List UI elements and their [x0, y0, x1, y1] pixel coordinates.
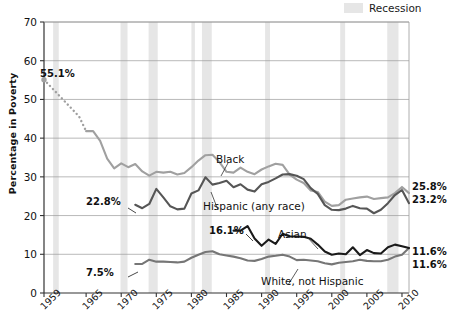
- y-tick-label: 70: [24, 16, 37, 28]
- end-label-white: 11.6%: [412, 259, 447, 270]
- poverty-rate-chart: Recession Percentage in Poverty 01020304…: [0, 0, 453, 336]
- y-tick-label: 30: [24, 171, 37, 183]
- y-tick-label: 10: [24, 248, 37, 260]
- y-tick-label: 20: [24, 210, 37, 222]
- x-axis-ticks: 1959196519701975198019851990199520002005…: [0, 298, 453, 336]
- y-tick-label: 40: [24, 132, 37, 144]
- annotation-white-start: 7.5%: [86, 267, 114, 278]
- y-tick-label: 60: [24, 55, 37, 67]
- annotation-black-start: 55.1%: [40, 68, 75, 79]
- annotation-hispanic-start: 22.8%: [86, 196, 121, 207]
- series-label-white: White, not Hispanic: [261, 275, 363, 287]
- annotation-asian-start: 16.1%: [209, 225, 244, 236]
- end-label-asian: 11.6%: [412, 246, 447, 257]
- series-label-asian: Asian: [278, 228, 307, 240]
- series-label-black: Black: [216, 153, 244, 165]
- series-label-hispanic: Hispanic (any race): [203, 200, 305, 212]
- y-axis-ticks: 010203040506070: [0, 0, 453, 336]
- end-label-black: 25.8%: [412, 181, 447, 192]
- end-label-hispanic: 23.2%: [412, 194, 447, 205]
- y-tick-label: 50: [24, 93, 37, 105]
